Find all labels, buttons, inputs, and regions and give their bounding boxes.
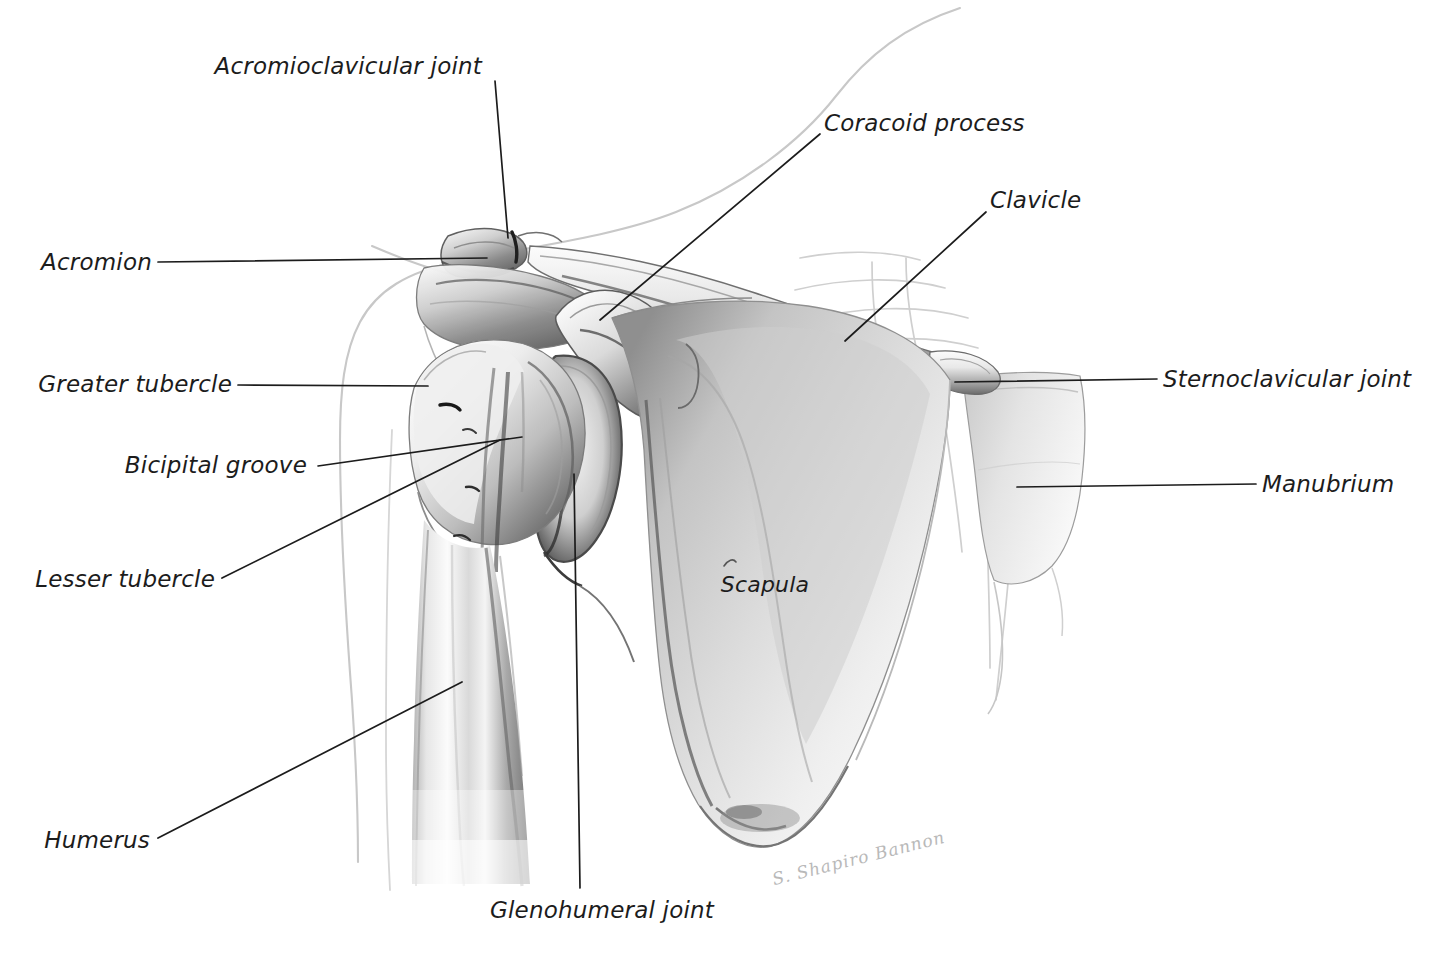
label-clavicle: Clavicle <box>990 189 1081 212</box>
label-glenohumeral-joint: Glenohumeral joint <box>490 899 714 922</box>
leader-line-acromion <box>158 258 487 262</box>
label-coracoid-process: Coracoid process <box>824 112 1025 135</box>
humerus-bone <box>400 340 585 900</box>
label-manubrium: Manubrium <box>1262 473 1394 496</box>
leader-line-clavicle <box>845 212 986 341</box>
body-contour-lower <box>386 430 392 890</box>
label-lesser-tubercle: Lesser tubercle <box>35 568 215 591</box>
label-greater-tubercle: Greater tubercle <box>38 373 232 396</box>
label-scapula: Scapula <box>721 574 809 596</box>
label-bicipital-groove: Bicipital groove <box>125 454 307 477</box>
label-sternoclavicular-joint: Sternoclavicular joint <box>1163 368 1411 391</box>
leader-line-acromioclavicular-joint <box>495 81 508 238</box>
figure-canvas: Acromioclavicular jointCoracoid processC… <box>0 0 1446 968</box>
label-humerus: Humerus <box>44 829 150 852</box>
label-acromioclavicular-joint: Acromioclavicular joint <box>215 55 482 78</box>
leader-line-greater-tubercle <box>238 385 428 386</box>
label-acromion: Acromion <box>41 251 152 274</box>
anatomy-illustration <box>0 0 1446 968</box>
manubrium-bone <box>963 372 1085 714</box>
